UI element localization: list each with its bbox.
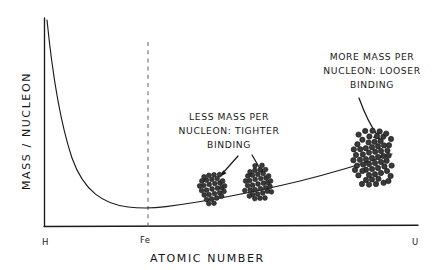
- large-nucleus: [351, 128, 395, 187]
- x-tick-label-h: H: [42, 237, 49, 247]
- annotation-looser-line-2: NUCLEON: LOOSER: [323, 65, 420, 76]
- annotation-tighter-line-3: BINDING: [207, 139, 251, 150]
- annotation-tighter-line-1: LESS MASS PER: [189, 111, 269, 122]
- axes-group: [44, 18, 418, 227]
- annotation-tighter-line-2: NUCLEON: TIGHTER: [179, 125, 280, 136]
- x-tick-label-fe: Fe: [140, 235, 150, 245]
- x-axis: [44, 225, 418, 226]
- y-axis-label: MASS / NUCLEON: [20, 72, 33, 190]
- annotation-looser-line-1: MORE MASS PER: [330, 51, 415, 62]
- y-axis-label-group: MASS / NUCLEON: [20, 72, 33, 190]
- arrow-to-small-nucleus-left: [220, 156, 239, 177]
- annotation-looser-line-3: BINDING: [350, 79, 394, 90]
- x-tick-label-u: U: [412, 237, 419, 247]
- x-axis-label: ATOMIC NUMBER: [150, 252, 265, 265]
- binding-energy-diagram: MASS / NUCLEON ATOMIC NUMBER H Fe U LESS…: [0, 0, 438, 270]
- annotation-tighter-binding: LESS MASS PER NUCLEON: TIGHTER BINDING: [179, 111, 280, 177]
- annotation-looser-binding: MORE MASS PER NUCLEON: LOOSER BINDING: [323, 51, 420, 140]
- small-nucleus-right: [242, 163, 273, 201]
